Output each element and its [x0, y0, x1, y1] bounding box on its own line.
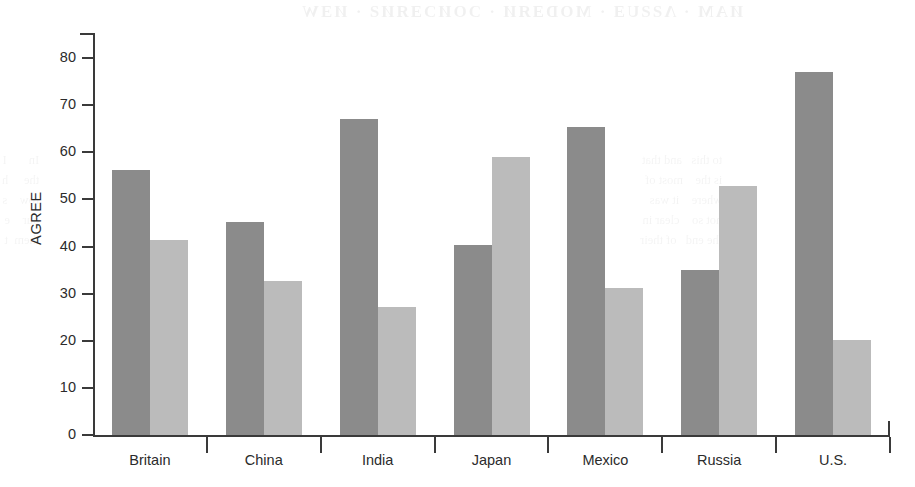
- bars-layer: [93, 33, 890, 435]
- bar-us-series1: [795, 72, 833, 435]
- x-axis-label-us: U.S.: [776, 452, 890, 468]
- y-axis-tick: [82, 434, 93, 436]
- y-axis-tick: [82, 340, 93, 342]
- y-axis-tick-label-wrap: 60: [34, 143, 76, 159]
- bar-britain-series1: [112, 170, 150, 435]
- y-axis-tick: [82, 151, 93, 153]
- bar-india-series1: [340, 119, 378, 435]
- x-axis-group-separator: [320, 437, 322, 453]
- y-axis-tick-label: 70: [34, 96, 76, 112]
- y-axis-tick-label-wrap: 30: [34, 285, 76, 301]
- y-axis-tick: [82, 293, 93, 295]
- bar-china-series2: [264, 281, 302, 435]
- x-axis-group-separator: [889, 437, 891, 453]
- y-axis-tick-label: 40: [34, 238, 76, 254]
- bar-russia-series1: [681, 270, 719, 435]
- y-axis-tick-label-wrap: 0: [34, 426, 76, 442]
- x-axis-line: [93, 435, 890, 437]
- x-axis-label-japan: Japan: [435, 452, 549, 468]
- y-axis-tick-label: 50: [34, 190, 76, 206]
- x-axis-label-china: China: [207, 452, 321, 468]
- y-axis-label: AGREE: [28, 163, 44, 273]
- y-axis-tick-label: 30: [34, 285, 76, 301]
- bar-mexico-series2: [605, 288, 643, 435]
- y-axis-tick-label-wrap: 50: [34, 190, 76, 206]
- x-axis-label-india: India: [321, 452, 435, 468]
- y-axis-tick-label-wrap: 40: [34, 238, 76, 254]
- bar-china-series1: [226, 222, 264, 435]
- x-axis-group-separator: [547, 437, 549, 453]
- bar-mexico-series1: [567, 127, 605, 435]
- y-axis-tick-label-wrap: 70: [34, 96, 76, 112]
- x-axis-group-separator: [661, 437, 663, 453]
- y-axis-tick: [82, 387, 93, 389]
- bar-britain-series2: [150, 240, 188, 435]
- bar-us-series2: [833, 340, 871, 435]
- x-axis-group-separator: [206, 437, 208, 453]
- bar-japan-series2: [492, 157, 530, 435]
- bar-russia-series2: [719, 186, 757, 435]
- y-axis-tick-label: 10: [34, 379, 76, 395]
- y-axis-tick: [82, 57, 93, 59]
- y-axis-tick-label: 60: [34, 143, 76, 159]
- bar-india-series2: [378, 307, 416, 435]
- x-axis-group-separator: [775, 437, 777, 453]
- x-axis-label-britain: Britain: [93, 452, 207, 468]
- y-axis-tick-label: 80: [34, 49, 76, 65]
- x-axis-label-mexico: Mexico: [548, 452, 662, 468]
- x-axis-group-separator: [434, 437, 436, 453]
- y-axis-tick-label-wrap: 20: [34, 332, 76, 348]
- y-axis-tick-label-wrap: 10: [34, 379, 76, 395]
- bar-chart: ИАΜ · ΛƧƧUƎ · ΜODƎЯИ · ƆOИƆƎЯИƧ · ИƎW In…: [0, 0, 915, 487]
- y-axis-tick-label-wrap: 80: [34, 49, 76, 65]
- x-axis-label-russia: Russia: [662, 452, 776, 468]
- scan-bleedthrough-top: ИАΜ · ΛƧƧUƎ · ΜODƎЯИ · ƆOИƆƎЯИƧ · ИƎW: [0, 0, 915, 26]
- y-axis-tick-label: 20: [34, 332, 76, 348]
- y-axis-tick: [82, 246, 93, 248]
- y-axis-tick-label: 0: [34, 426, 76, 442]
- y-axis-tick: [82, 198, 93, 200]
- y-axis-tick: [82, 104, 93, 106]
- bar-japan-series1: [454, 245, 492, 435]
- bleedthrough-text-top: ИАΜ · ΛƧƧUƎ · ΜODƎЯИ · ƆOИƆƎЯИƧ · ИƎW: [300, 2, 743, 22]
